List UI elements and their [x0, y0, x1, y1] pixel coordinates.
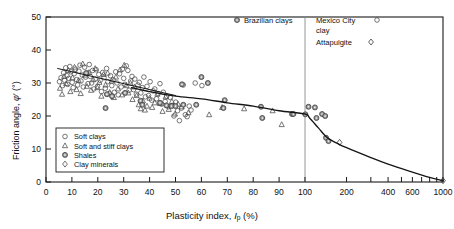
- legend-label-soft-clays: Soft clays: [74, 132, 106, 141]
- x-tick-label-50: 50: [171, 187, 181, 197]
- data-point-brazilian-clays: [173, 104, 178, 109]
- data-point-brazilian-clays: [104, 92, 109, 97]
- x-tick-label-90: 90: [274, 187, 284, 197]
- data-point-brazilian-clays: [194, 102, 199, 107]
- plot-canvas: 0102030405001020304050607080901002004006…: [0, 0, 454, 229]
- data-point-shales: [181, 102, 186, 107]
- y-tick-label-30: 30: [32, 78, 42, 88]
- y-axis-label: Friction angle, φ′ (°): [11, 81, 21, 160]
- mexico-city-clay-label-line1: Mexico City: [316, 16, 355, 25]
- data-point-shales: [306, 104, 311, 109]
- legend-label-clay-minerals: Clay minerals: [74, 160, 119, 169]
- brazilian-clays-marker: [235, 18, 240, 23]
- x-tick-label-1000: 1000: [434, 187, 453, 197]
- x-tick-label-10: 10: [67, 187, 77, 197]
- data-point-shales: [199, 75, 204, 80]
- data-point-brazilian-clays: [103, 106, 108, 111]
- x-tick-label-20: 20: [93, 187, 103, 197]
- x-tick-label-40: 40: [145, 187, 155, 197]
- data-point-brazilian-clays: [157, 100, 162, 105]
- legend-label-shales: Shales: [74, 151, 97, 160]
- x-tick-label-0: 0: [44, 187, 49, 197]
- data-point-brazilian-clays: [140, 102, 145, 107]
- y-tick-label-20: 20: [32, 111, 42, 121]
- x-tick-label-400: 400: [381, 187, 395, 197]
- data-point-shales: [260, 115, 265, 120]
- y-tick-label-50: 50: [32, 12, 42, 22]
- x-tick-label-80: 80: [248, 187, 258, 197]
- data-point-shales: [205, 81, 210, 86]
- data-point-shales: [314, 115, 319, 120]
- attapulgite-label: Attapulgite: [316, 38, 352, 47]
- brazilian-clays-label: Brazilian clays: [244, 16, 293, 25]
- data-point-shales: [221, 106, 226, 111]
- data-point-brazilian-clays: [110, 94, 115, 99]
- data-point-brazilian-clays: [122, 90, 127, 95]
- y-tick-label-40: 40: [32, 45, 42, 55]
- legend-label-soft-and-stiff-clays: Soft and stiff clays: [74, 142, 133, 151]
- data-point-brazilian-clays: [164, 103, 169, 108]
- x-tick-label-200: 200: [339, 187, 353, 197]
- x-tick-label-60: 60: [197, 187, 207, 197]
- legend-marker-shales: [63, 152, 68, 157]
- chart-figure: 0102030405001020304050607080901002004006…: [0, 0, 454, 229]
- data-point-shales: [323, 114, 328, 119]
- x-tick-label-100: 100: [298, 187, 312, 197]
- mexico-city-clay-label-line2: clay: [316, 26, 330, 35]
- x-axis-label: Plasticity index, Ip (%): [166, 210, 258, 221]
- x-tick-label-70: 70: [223, 187, 233, 197]
- y-tick-label-10: 10: [32, 144, 42, 154]
- y-tick-label-0: 0: [36, 177, 41, 187]
- x-tick-label-600: 600: [405, 187, 419, 197]
- data-point-shales: [179, 82, 184, 87]
- data-point-shales: [312, 105, 317, 110]
- x-tick-label-30: 30: [119, 187, 129, 197]
